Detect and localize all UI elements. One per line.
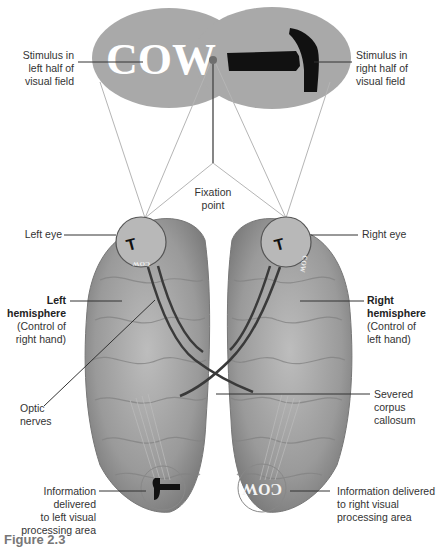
label-title: Right bbox=[367, 294, 394, 306]
fixation-point-label: Fixation point bbox=[186, 186, 240, 212]
label-line: Stimulus in bbox=[18, 49, 74, 62]
label-title: hemisphere bbox=[7, 307, 66, 319]
label-line: to left visual bbox=[2, 511, 96, 524]
label-line: to right visual bbox=[337, 498, 437, 511]
label-line: left half of bbox=[18, 62, 74, 75]
label-line: right hand) bbox=[4, 333, 66, 346]
label-line: left hand) bbox=[367, 333, 437, 346]
right-eye-label: Right eye bbox=[362, 228, 432, 241]
left-hemisphere-label: Left hemisphere (Control of right hand) bbox=[4, 294, 66, 346]
optic-nerves-label: Optic nerves bbox=[20, 402, 70, 428]
label-line: nerves bbox=[20, 415, 70, 428]
figure-caption: Figure 2.3 bbox=[4, 532, 65, 547]
cow-word: COW bbox=[106, 35, 216, 84]
brain bbox=[85, 219, 352, 513]
svg-text:COW: COW bbox=[133, 260, 151, 268]
label-line: visual field bbox=[356, 75, 436, 88]
label-line: Severed bbox=[374, 388, 434, 401]
label-line: (Control of bbox=[367, 320, 437, 333]
left-eye-label: Left eye bbox=[4, 228, 62, 241]
label-title: Left bbox=[47, 294, 66, 306]
label-title: hemisphere bbox=[367, 307, 426, 319]
mirrored-cow-word: COW bbox=[242, 481, 282, 498]
label-line: visual field bbox=[18, 75, 74, 88]
label-line: processing area bbox=[337, 511, 437, 524]
label-line: Information delivered bbox=[2, 485, 96, 511]
left-eye: T COW bbox=[116, 217, 166, 268]
label-line: callosum bbox=[374, 414, 434, 427]
left-stimulus-label: Stimulus in left half of visual field bbox=[18, 49, 74, 88]
label-line: Optic bbox=[20, 402, 70, 415]
label-line: Stimulus in bbox=[356, 49, 436, 62]
right-hemisphere-label: Right hemisphere (Control of left hand) bbox=[367, 294, 437, 346]
right-stimulus-label: Stimulus in right half of visual field bbox=[356, 49, 436, 88]
left-processing-label: Information delivered to left visual pro… bbox=[2, 485, 96, 537]
fixation-dot bbox=[209, 56, 217, 64]
label-line: right half of bbox=[356, 62, 436, 75]
label-line: corpus bbox=[374, 401, 434, 414]
corpus-callosum-label: Severed corpus callosum bbox=[374, 388, 434, 427]
label-line: Information delivered bbox=[337, 485, 437, 498]
label-line: (Control of bbox=[4, 320, 66, 333]
right-processing-label: Information delivered to right visual pr… bbox=[337, 485, 437, 524]
label-line: point bbox=[186, 199, 240, 212]
label-line: Fixation bbox=[186, 186, 240, 199]
